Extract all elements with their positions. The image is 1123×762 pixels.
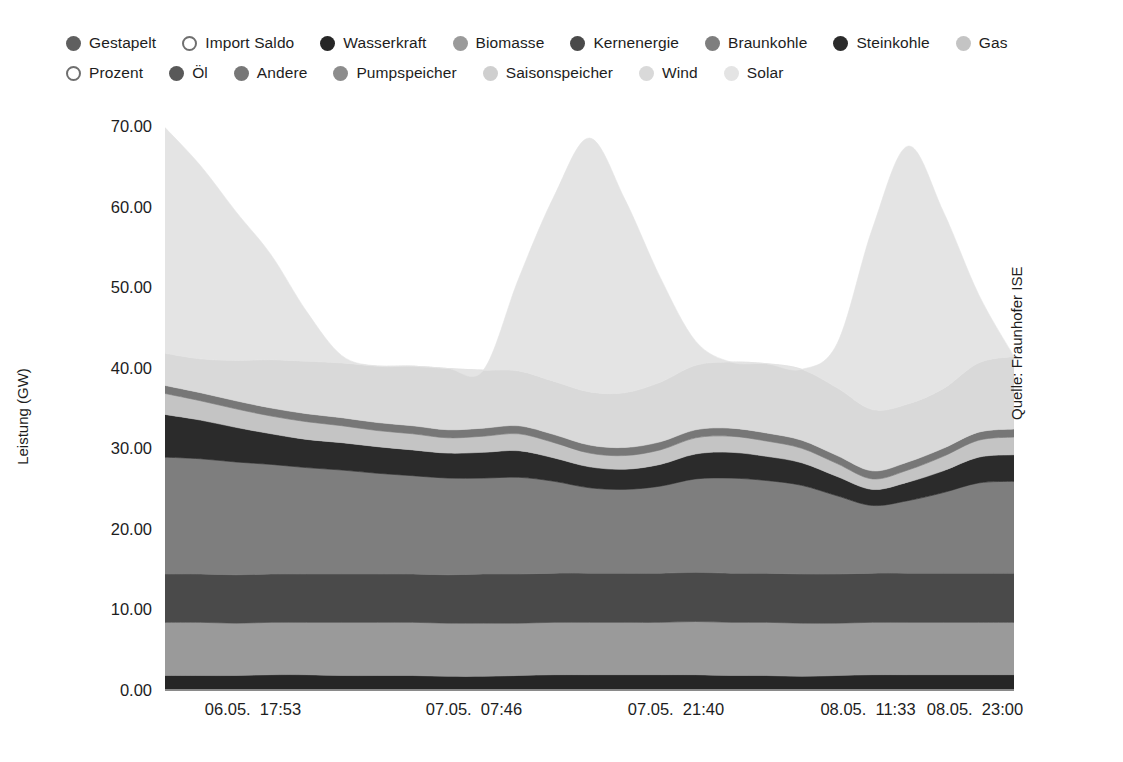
y-axis-title: Leistung (GW) bbox=[14, 337, 31, 497]
area-band-kernenergie bbox=[165, 572, 1014, 623]
x-tick-label: 08.05. 11:33 bbox=[820, 700, 915, 719]
area-band-biomasse bbox=[165, 622, 1014, 677]
stacked-area-chart: 0.0010.0020.0030.0040.0050.0060.0070.00 … bbox=[0, 0, 1123, 762]
x-axis-line bbox=[165, 689, 1014, 691]
y-tick-label: 30.00 bbox=[68, 439, 152, 458]
source-note: Quelle: Fraunhofer ISE bbox=[1008, 190, 1025, 420]
y-tick-label: 40.00 bbox=[68, 358, 152, 377]
y-tick-label: 0.00 bbox=[68, 681, 152, 700]
x-tick-label: 08.05. 23:00 bbox=[927, 700, 1023, 719]
area-band-wasserkraft bbox=[165, 675, 1014, 690]
y-axis-ticks: 0.0010.0020.0030.0040.0050.0060.0070.00 bbox=[68, 0, 152, 762]
x-tick-label: 07.05. 21:40 bbox=[628, 700, 724, 719]
x-tick-label: 07.05. 07:46 bbox=[426, 700, 522, 719]
y-tick-label: 50.00 bbox=[68, 278, 152, 297]
plot-canvas bbox=[165, 126, 1014, 690]
y-tick-label: 20.00 bbox=[68, 519, 152, 538]
y-tick-label: 60.00 bbox=[68, 197, 152, 216]
x-tick-label: 06.05. 17:53 bbox=[205, 700, 301, 719]
x-axis-ticks: 06.05. 17:5307.05. 07:4607.05. 21:4008.0… bbox=[0, 700, 1123, 730]
y-tick-label: 10.00 bbox=[68, 600, 152, 619]
y-tick-label: 70.00 bbox=[68, 117, 152, 136]
